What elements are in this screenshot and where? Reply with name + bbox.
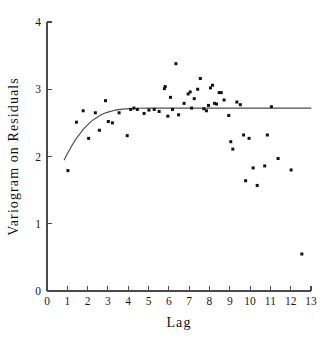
data-point [169, 96, 172, 99]
data-point [242, 133, 245, 136]
data-point [266, 133, 269, 136]
x-tick-label: 9 [227, 295, 233, 307]
data-point [229, 140, 232, 143]
data-point [231, 148, 234, 151]
data-point [171, 108, 174, 111]
fitted-curve [64, 108, 311, 160]
x-tick-label: 13 [305, 295, 317, 307]
data-point [177, 113, 180, 116]
x-tick-label: 3 [105, 295, 111, 307]
data-point [256, 184, 259, 187]
x-tick-label: 7 [186, 295, 192, 307]
y-tick-label: 4 [35, 16, 41, 28]
data-point [66, 169, 69, 172]
x-tick-label: 5 [146, 295, 152, 307]
x-tick-label: 0 [44, 295, 50, 307]
y-axis-title: Variogram on Residuals [6, 77, 21, 236]
variogram-scatter-figure: 01234567891011121301234 LagVariogram on … [0, 0, 332, 341]
data-point [136, 108, 139, 111]
x-tick-label: 12 [285, 295, 297, 307]
data-point [174, 62, 177, 65]
data-point [143, 112, 146, 115]
data-point [82, 109, 85, 112]
y-tick-label: 1 [35, 218, 41, 230]
variogram-model-curve [64, 108, 311, 160]
data-point [211, 84, 214, 87]
data-point [239, 103, 242, 106]
data-point [270, 105, 273, 108]
x-tick-label: 8 [207, 295, 213, 307]
data-point [193, 97, 196, 100]
data-point [300, 253, 303, 256]
data-point [209, 86, 212, 89]
x-axis-title: Lag [166, 315, 191, 330]
data-point [277, 157, 280, 160]
y-tick-label: 2 [35, 151, 41, 163]
data-point [147, 109, 150, 112]
axes: 01234567891011121301234 [35, 16, 317, 307]
data-point [263, 164, 266, 167]
data-point [223, 99, 226, 102]
data-point [164, 85, 167, 88]
data-point [126, 134, 129, 137]
data-point [104, 99, 107, 102]
axis-labels: LagVariogram on Residuals [6, 77, 192, 330]
data-point [129, 108, 132, 111]
data-point [248, 137, 251, 140]
data-point [153, 108, 156, 111]
data-point [252, 166, 255, 169]
data-point [190, 107, 193, 110]
y-tick-label: 0 [35, 285, 41, 297]
data-point [107, 120, 110, 123]
data-point [75, 121, 78, 124]
data-point [205, 109, 208, 112]
data-point [290, 168, 293, 171]
data-point [87, 137, 90, 140]
data-point [132, 107, 135, 110]
data-point [166, 115, 169, 118]
x-tick-label: 2 [85, 295, 91, 307]
data-point [94, 111, 97, 114]
x-tick-label: 6 [166, 295, 172, 307]
y-tick-label: 3 [35, 83, 41, 95]
data-point [215, 103, 218, 106]
data-point [158, 110, 161, 113]
data-point [235, 101, 238, 104]
data-point [244, 179, 247, 182]
x-tick-label: 4 [125, 295, 131, 307]
data-point [220, 91, 223, 94]
x-tick-label: 10 [244, 295, 256, 307]
data-points [66, 62, 303, 255]
data-point [227, 114, 230, 117]
data-point [98, 129, 101, 132]
data-point [207, 104, 210, 107]
plot-canvas: 01234567891011121301234 LagVariogram on … [0, 0, 332, 341]
data-point [199, 77, 202, 80]
x-tick-label: 11 [265, 295, 276, 307]
data-point [202, 107, 205, 110]
data-point [183, 102, 186, 105]
data-point [196, 88, 199, 91]
data-point [111, 121, 114, 124]
data-point [118, 111, 121, 114]
x-tick-label: 1 [64, 295, 70, 307]
data-point [189, 90, 192, 93]
